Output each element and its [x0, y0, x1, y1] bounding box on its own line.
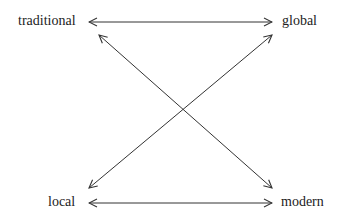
node-local: local — [48, 195, 75, 209]
arrow-traditional-modern — [99, 35, 272, 188]
arrows-layer — [0, 0, 345, 218]
arrow-local-global — [89, 35, 272, 188]
node-traditional: traditional — [18, 14, 76, 28]
node-global: global — [282, 14, 317, 28]
node-modern: modern — [281, 195, 324, 209]
